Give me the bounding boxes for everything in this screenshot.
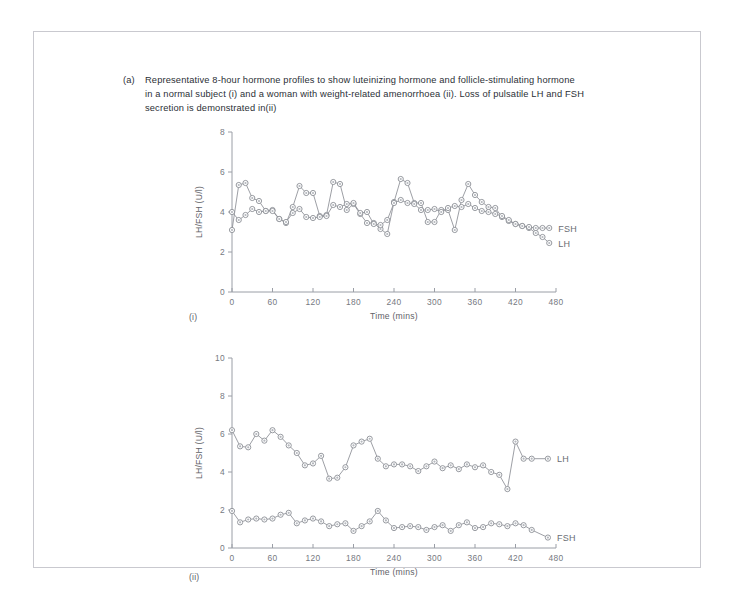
data-point-core (231, 211, 233, 213)
data-point-core (548, 227, 550, 229)
data-point-core (498, 474, 500, 476)
series-label-lh: LH (557, 454, 569, 464)
figure-page: (a) Representative 8-hour hormone profil… (0, 0, 729, 593)
x-tick-label: 0 (230, 553, 235, 563)
data-point-core (386, 233, 388, 235)
data-point-core (440, 211, 442, 213)
data-point-core (450, 464, 452, 466)
chart-panel-i: 02468060120180240300360420480Time (mins)… (184, 124, 694, 334)
data-point-core (239, 521, 241, 523)
data-point-core (508, 219, 510, 221)
data-point-core (361, 441, 363, 443)
data-point-core (231, 229, 233, 231)
data-point-core (442, 467, 444, 469)
data-point-core (514, 522, 516, 524)
data-point-core (385, 519, 387, 521)
data-point-core (506, 488, 508, 490)
y-axis-title: LH/FSH (U/l) (194, 186, 204, 238)
x-tick-label: 120 (306, 297, 321, 307)
data-point-core (409, 465, 411, 467)
x-tick-label: 240 (387, 297, 402, 307)
data-point-core (336, 523, 338, 525)
chart-ii-svg: 0246810060120180240300360420480Time (min… (184, 350, 694, 593)
series-fsh (229, 197, 551, 230)
data-point-core (320, 455, 322, 457)
data-point-core (494, 213, 496, 215)
x-tick-label: 0 (230, 297, 235, 307)
data-point-core (298, 185, 300, 187)
caption-line-2: in a normal subject (i) and a woman with… (123, 87, 668, 101)
y-tick-label: 10 (215, 353, 225, 363)
data-point-core (393, 463, 395, 465)
x-axis-title: Time (mins) (370, 311, 418, 321)
data-point-core (482, 464, 484, 466)
data-point-core (425, 529, 427, 531)
data-point-core (231, 510, 233, 512)
data-point-core (251, 208, 253, 210)
caption-line-1: (a) Representative 8-hour hormone profil… (123, 73, 668, 87)
data-point-core (312, 517, 314, 519)
data-point-core (231, 429, 233, 431)
data-point-core (271, 210, 273, 212)
figure-frame: (a) Representative 8-hour hormone profil… (33, 31, 701, 568)
data-point-core (442, 524, 444, 526)
data-point-core (312, 192, 314, 194)
data-point-core (304, 464, 306, 466)
series-label-fsh: FSH (557, 533, 576, 543)
data-point-core (352, 202, 354, 204)
data-point-core (385, 465, 387, 467)
y-axis-title: LH/FSH (U/l) (194, 427, 204, 479)
data-point-core (359, 212, 361, 214)
data-point-core (328, 478, 330, 480)
data-point-core (305, 192, 307, 194)
data-point-core (247, 518, 249, 520)
y-tick-label: 0 (220, 543, 225, 553)
data-point-core (433, 526, 435, 528)
y-tick-label: 2 (220, 247, 225, 257)
data-point-core (265, 210, 267, 212)
data-point-core (366, 222, 368, 224)
data-point-core (377, 510, 379, 512)
data-point-core (433, 221, 435, 223)
data-point-core (369, 520, 371, 522)
data-point-core (450, 530, 452, 532)
data-point-core (238, 184, 240, 186)
data-point-core (531, 458, 533, 460)
data-point-core (379, 224, 381, 226)
x-tick-label: 60 (268, 297, 278, 307)
data-point-core (466, 521, 468, 523)
data-point-core (373, 223, 375, 225)
data-point-core (458, 468, 460, 470)
x-tick-label: 300 (427, 297, 442, 307)
data-point-core (292, 212, 294, 214)
y-tick-label: 4 (220, 207, 225, 217)
data-point-core (481, 210, 483, 212)
data-point-core (541, 227, 543, 229)
data-point-core (460, 199, 462, 201)
data-point-core (427, 221, 429, 223)
data-point-core (467, 203, 469, 205)
data-point-core (420, 202, 422, 204)
data-point-core (312, 462, 314, 464)
data-point-core (458, 524, 460, 526)
data-point-core (447, 207, 449, 209)
data-point-core (280, 514, 282, 516)
data-point-core (454, 229, 456, 231)
data-point-core (482, 526, 484, 528)
data-point-core (521, 225, 523, 227)
data-point-core (255, 517, 257, 519)
data-point-core (547, 458, 549, 460)
data-point-core (288, 444, 290, 446)
data-point-core (541, 236, 543, 238)
panel-ii-tag: (ii) (189, 572, 199, 582)
data-point-core (409, 525, 411, 527)
data-point-core (393, 202, 395, 204)
data-point-core (460, 206, 462, 208)
data-point-core (400, 178, 402, 180)
data-point-core (401, 463, 403, 465)
data-point-core (487, 206, 489, 208)
caption-text-2: in a normal subject (i) and a woman with… (145, 87, 668, 101)
data-point-core (487, 211, 489, 213)
data-point-core (304, 519, 306, 521)
data-point-core (296, 452, 298, 454)
